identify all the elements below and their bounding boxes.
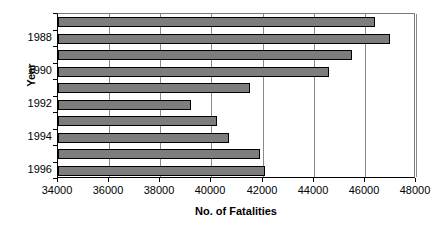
- bar-row: [58, 17, 414, 27]
- bar-row: [58, 83, 414, 93]
- bar-1987: [58, 17, 375, 27]
- bar-row: [58, 133, 414, 143]
- y-axis-label-1996: 1996: [2, 164, 52, 175]
- bar-chart: Year 19881990199219941996 34000360003800…: [0, 0, 432, 232]
- bar-1990: [58, 67, 329, 77]
- bar-1989: [58, 50, 352, 60]
- bar-1995: [58, 149, 260, 159]
- bar-1996: [58, 166, 265, 176]
- bar-row: [58, 34, 414, 44]
- bar-row: [58, 50, 414, 60]
- x-axis-label-48000: 48000: [385, 184, 432, 196]
- x-axis-tick: [108, 178, 109, 182]
- x-axis-title: No. of Fatalities: [57, 205, 415, 217]
- x-axis-tick: [364, 178, 365, 182]
- bar-1991: [58, 83, 250, 93]
- x-axis-tick: [415, 178, 416, 182]
- bar-row: [58, 166, 414, 176]
- y-axis-label-1988: 1988: [2, 32, 52, 43]
- x-axis-tick: [210, 178, 211, 182]
- x-axis-tick: [262, 178, 263, 182]
- plot-area: [57, 13, 415, 178]
- bar-row: [58, 149, 414, 159]
- x-axis-tick: [57, 178, 58, 182]
- x-axis-label-40000: 40000: [180, 184, 240, 196]
- y-axis-label-1994: 1994: [2, 131, 52, 142]
- y-axis-label-1992: 1992: [2, 98, 52, 109]
- bars-group: [58, 14, 414, 177]
- gridline: [416, 14, 417, 177]
- bar-1988: [58, 34, 390, 44]
- bar-1992: [58, 100, 191, 110]
- bar-1993: [58, 116, 217, 126]
- bar-1994: [58, 133, 229, 143]
- bar-row: [58, 67, 414, 77]
- bar-row: [58, 116, 414, 126]
- x-axis-tick: [313, 178, 314, 182]
- y-axis-tick-labels: 19881990199219941996: [0, 13, 57, 178]
- y-axis-label-1990: 1990: [2, 65, 52, 76]
- x-axis-tick-labels: 3400036000380004000042000440004600048000: [0, 184, 432, 200]
- x-axis-tick: [159, 178, 160, 182]
- bar-row: [58, 100, 414, 110]
